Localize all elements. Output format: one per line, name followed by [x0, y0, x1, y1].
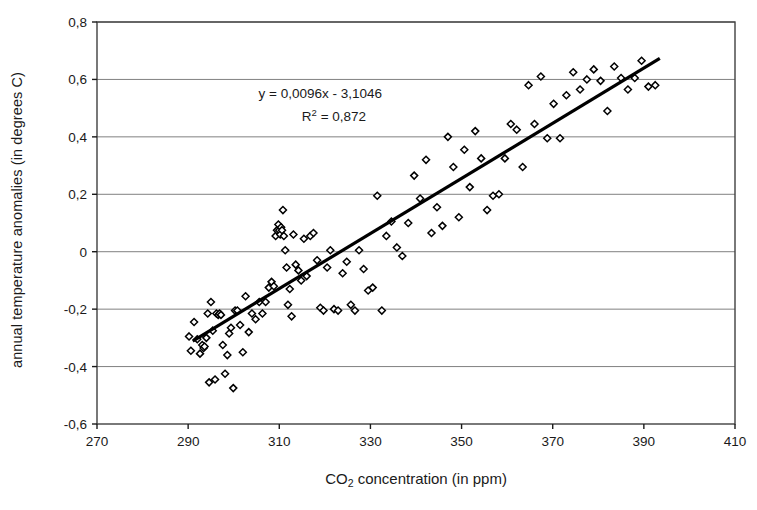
- data-point: [279, 207, 286, 214]
- data-point: [393, 244, 400, 251]
- data-point: [324, 264, 331, 271]
- plot-border: [97, 22, 735, 424]
- x-tick-label-0: 270: [86, 434, 109, 449]
- data-point: [239, 349, 246, 356]
- data-point: [230, 385, 237, 392]
- data-point: [638, 57, 645, 64]
- plot-frame: [97, 22, 735, 424]
- x-axis-title-subscript: 2: [348, 477, 354, 489]
- data-point: [450, 164, 457, 171]
- data-point: [444, 133, 451, 140]
- data-point: [433, 204, 440, 211]
- data-point: [428, 230, 435, 237]
- data-point: [501, 155, 508, 162]
- data-point: [577, 86, 584, 93]
- x-tick-label-3: 330: [359, 434, 382, 449]
- data-point: [563, 92, 570, 99]
- y-axis: -0,6-0,4-0,200,20,40,60,8: [64, 15, 97, 432]
- annotations: y = 0,0096x - 3,1046R2 = 0,872: [259, 86, 382, 124]
- data-point: [461, 146, 468, 153]
- data-point: [290, 231, 297, 238]
- data-point: [383, 232, 390, 239]
- data-point: [590, 66, 597, 73]
- data-point: [611, 63, 618, 70]
- data-point: [411, 172, 418, 179]
- data-point: [507, 120, 514, 127]
- data-point: [347, 301, 354, 308]
- data-point: [283, 264, 290, 271]
- x-axis-title-pre: CO: [325, 470, 348, 487]
- data-point: [360, 265, 367, 272]
- data-point: [472, 128, 479, 135]
- data-point: [570, 69, 577, 76]
- data-point: [245, 329, 252, 336]
- data-points: [186, 57, 659, 391]
- y-tick-label-6: 0,6: [68, 72, 87, 87]
- plot-canvas: -0,6-0,4-0,200,20,40,60,8270290310330350…: [0, 0, 757, 510]
- x-tick-label-1: 290: [177, 434, 200, 449]
- x-tick-label-7: 410: [724, 434, 747, 449]
- data-point: [374, 192, 381, 199]
- data-point: [351, 307, 358, 314]
- r-squared-symbol: R: [302, 109, 312, 124]
- data-point: [484, 207, 491, 214]
- data-point: [191, 319, 198, 326]
- data-point: [478, 155, 485, 162]
- data-point: [339, 270, 346, 277]
- data-point: [513, 126, 520, 133]
- data-point: [282, 247, 289, 254]
- regression-equation-label: y = 0,0096x - 3,1046: [259, 86, 382, 101]
- data-point: [356, 247, 363, 254]
- r-squared-label: R2 = 0,872: [302, 107, 366, 124]
- data-point: [284, 301, 291, 308]
- y-tick-label-7: 0,8: [68, 15, 87, 30]
- scatter-chart-figure: annual temperature anomalies (in degrees…: [0, 0, 757, 510]
- data-point: [186, 333, 193, 340]
- data-point: [237, 321, 244, 328]
- gridlines: [97, 22, 735, 367]
- x-tick-label-6: 390: [633, 434, 656, 449]
- data-point: [466, 184, 473, 191]
- data-point: [519, 164, 526, 171]
- x-axis-title: CO2 concentration (in ppm): [97, 470, 735, 487]
- data-point: [399, 253, 406, 260]
- data-point: [222, 370, 229, 377]
- data-point: [423, 156, 430, 163]
- data-point: [439, 222, 446, 229]
- data-point: [583, 76, 590, 83]
- y-tick-label-2: -0,2: [64, 302, 87, 317]
- data-point: [224, 352, 231, 359]
- data-point: [597, 77, 604, 84]
- data-point: [378, 307, 385, 314]
- y-tick-label-1: -0,4: [64, 360, 88, 375]
- x-tick-label-5: 370: [541, 434, 564, 449]
- data-point: [242, 293, 249, 300]
- data-point: [544, 135, 551, 142]
- y-tick-label-3: 0: [79, 245, 87, 260]
- data-point: [286, 286, 293, 293]
- data-point: [259, 310, 266, 317]
- y-tick-label-0: -0,6: [64, 417, 87, 432]
- data-point: [343, 258, 350, 265]
- x-tick-label-2: 310: [268, 434, 291, 449]
- data-point: [455, 214, 462, 221]
- data-point: [604, 108, 611, 115]
- data-point: [288, 313, 295, 320]
- data-point: [405, 220, 412, 227]
- data-point: [531, 120, 538, 127]
- x-tick-label-4: 350: [450, 434, 473, 449]
- data-point: [652, 82, 659, 89]
- data-point: [550, 100, 557, 107]
- data-point: [624, 86, 631, 93]
- data-point: [219, 342, 226, 349]
- y-tick-label-5: 0,4: [68, 130, 87, 145]
- data-point: [645, 83, 652, 90]
- data-point: [557, 135, 564, 142]
- data-point: [204, 310, 211, 317]
- x-axis-title-post: concentration (in ppm): [353, 470, 506, 487]
- y-tick-label-4: 0,2: [68, 187, 87, 202]
- data-point: [327, 247, 334, 254]
- x-axis: 270290310330350370390410: [86, 424, 747, 449]
- data-point: [207, 298, 214, 305]
- r-squared-value: = 0,872: [317, 109, 366, 124]
